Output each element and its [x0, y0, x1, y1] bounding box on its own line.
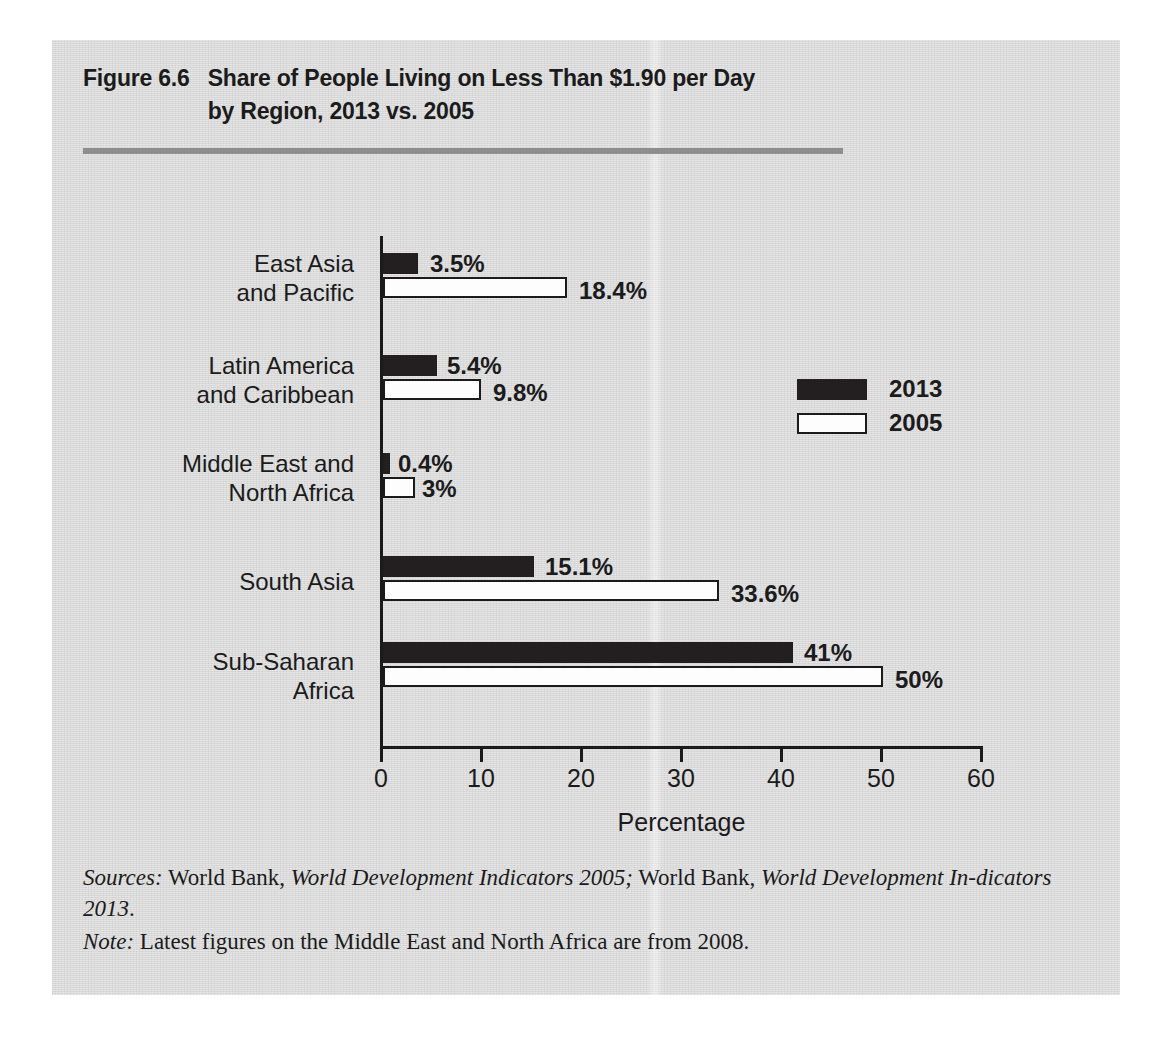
sources-line: Sources: World Bank, World Development I… — [83, 863, 1093, 925]
sources-italic-2: World Development In- — [761, 865, 976, 890]
x-tick-30 — [680, 749, 683, 762]
x-tick-0 — [380, 749, 383, 762]
bar-2005-south-asia[interactable] — [383, 580, 719, 601]
bar-value-2005-south-asia: 33.6% — [731, 583, 799, 604]
bar-value-2005-latin-america-and-caribbean: 9.8% — [493, 382, 548, 403]
category-label-line-2: and Pacific — [237, 279, 354, 306]
category-label-line-1: Sub-Saharan — [213, 648, 354, 675]
category-label-line-1: East Asia — [254, 250, 354, 277]
category-label-line-1: Middle East and — [182, 450, 354, 477]
bar-2005-sub-saharan-africa[interactable] — [383, 666, 883, 687]
bar-value-2013-east-asia-and-pacific: 3.5% — [430, 253, 485, 274]
category-label-latin-america-and-caribbean: Latin America and Caribbean — [34, 352, 354, 410]
x-tick-60 — [980, 749, 983, 762]
x-tick-20 — [580, 749, 583, 762]
bar-2013-south-asia[interactable] — [383, 556, 534, 577]
bar-2005-latin-america-and-caribbean[interactable] — [383, 379, 481, 400]
category-label-south-asia: South Asia — [34, 568, 354, 597]
bar-value-2013-sub-saharan-africa: 41% — [804, 642, 852, 663]
sources-label: Sources: — [83, 865, 163, 890]
bar-value-2005-east-asia-and-pacific: 18.4% — [579, 280, 647, 301]
sources-text-3: . — [129, 896, 135, 921]
category-label-line-2: North Africa — [229, 479, 354, 506]
category-label-line-2: and Caribbean — [197, 381, 354, 408]
x-tick-40 — [780, 749, 783, 762]
bar-2013-middle-east-and-north-africa[interactable] — [383, 453, 390, 474]
category-label-east-asia-and-pacific: East Asia and Pacific — [34, 250, 354, 308]
legend-item-2013[interactable]: 2013 — [797, 372, 942, 406]
legend-swatch-2005-icon — [797, 413, 867, 434]
note-line: Note: Latest figures on the Middle East … — [83, 927, 1093, 958]
bar-value-2005-middle-east-and-north-africa: 3% — [422, 478, 457, 499]
legend-swatch-2013-icon — [797, 379, 867, 400]
bar-chart: 0 10 20 30 40 50 60 Percentage East Asia… — [52, 40, 1120, 995]
note-label: Note: — [83, 929, 134, 954]
x-axis-title: Percentage — [380, 808, 983, 837]
category-label-middle-east-and-north-africa: Middle East and North Africa — [34, 450, 354, 508]
x-tick-label-20: 20 — [551, 764, 611, 793]
legend-label-2013: 2013 — [889, 375, 942, 403]
x-tick-label-60: 60 — [951, 764, 1011, 793]
bar-2013-east-asia-and-pacific[interactable] — [383, 253, 418, 274]
bar-value-2005-sub-saharan-africa: 50% — [895, 669, 943, 690]
legend-item-2005[interactable]: 2005 — [797, 406, 942, 440]
category-label-line-2: Africa — [293, 677, 354, 704]
x-tick-10 — [480, 749, 483, 762]
bar-2013-latin-america-and-caribbean[interactable] — [383, 355, 437, 376]
bar-2013-sub-saharan-africa[interactable] — [383, 642, 793, 663]
category-label-sub-saharan-africa: Sub-Saharan Africa — [34, 648, 354, 706]
category-label-line-1: South Asia — [239, 568, 354, 595]
figure-footnotes: Sources: World Bank, World Development I… — [83, 863, 1093, 957]
x-tick-label-0: 0 — [351, 764, 411, 793]
sources-text-1: World Bank, — [163, 865, 291, 890]
legend-label-2005: 2005 — [889, 409, 942, 437]
x-tick-label-50: 50 — [851, 764, 911, 793]
x-tick-label-10: 10 — [451, 764, 511, 793]
note-text: Latest figures on the Middle East and No… — [134, 929, 749, 954]
bar-2005-east-asia-and-pacific[interactable] — [383, 277, 567, 298]
bar-value-2013-latin-america-and-caribbean: 5.4% — [447, 355, 502, 376]
bar-2005-middle-east-and-north-africa[interactable] — [383, 477, 415, 498]
figure-panel: Figure 6.6 Share of People Living on Les… — [52, 40, 1120, 995]
bar-value-2013-middle-east-and-north-africa: 0.4% — [398, 453, 453, 474]
chart-legend: 2013 2005 — [797, 372, 942, 440]
x-tick-label-30: 30 — [651, 764, 711, 793]
x-tick-label-40: 40 — [751, 764, 811, 793]
bar-value-2013-south-asia: 15.1% — [545, 556, 613, 577]
sources-text-2: World Bank, — [633, 865, 761, 890]
category-label-line-1: Latin America — [209, 352, 354, 379]
x-tick-50 — [880, 749, 883, 762]
sources-italic-1: World Development Indicators 2005; — [291, 865, 633, 890]
